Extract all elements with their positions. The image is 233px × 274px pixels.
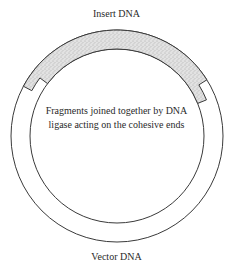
insert-dna-segment bbox=[23, 30, 206, 103]
caption-line-2: ligase acting on the cohesive ends bbox=[0, 118, 233, 132]
caption-line-1: Fragments joined together by DNA bbox=[0, 104, 233, 118]
vector-dna-label: Vector DNA bbox=[0, 251, 233, 262]
ligation-caption: Fragments joined together by DNA ligase … bbox=[0, 104, 233, 132]
plasmid-ring bbox=[0, 0, 233, 274]
vector-inner-strand bbox=[30, 49, 204, 223]
insert-dna-label: Insert DNA bbox=[0, 8, 233, 19]
